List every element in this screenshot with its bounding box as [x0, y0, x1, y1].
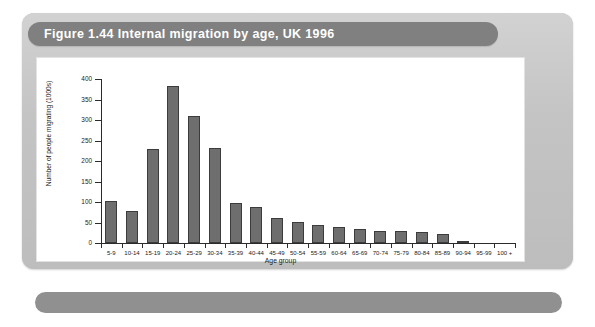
- bar: [395, 231, 407, 243]
- x-axis-tick-mark: [515, 243, 516, 248]
- x-axis-tick-label: 5-9: [101, 250, 122, 256]
- x-axis-tick-label: 65-69: [349, 250, 370, 256]
- chart-canvas: Number of people migrating (1000s) 05010…: [36, 57, 525, 262]
- x-axis-tick-mark: [453, 243, 454, 248]
- bar: [292, 222, 304, 243]
- bar: [333, 227, 345, 243]
- x-axis-tick-label: 15-19: [142, 250, 163, 256]
- x-axis-tick-mark: [142, 243, 143, 248]
- x-axis-tick-mark: [184, 243, 185, 248]
- y-axis-tick-label: 350: [81, 96, 92, 103]
- x-axis-tick-label: 100 +: [494, 250, 515, 256]
- figure-title-bar: Figure 1.44 Internal migration by age, U…: [28, 22, 498, 46]
- x-axis-tick-label: 55-59: [308, 250, 329, 256]
- y-axis-title: Number of people migrating (1000s): [45, 39, 52, 229]
- figure-title: Figure 1.44 Internal migration by age, U…: [28, 27, 335, 41]
- x-axis-tick-mark: [474, 243, 475, 248]
- x-axis-tick-label: 60-64: [329, 250, 350, 256]
- x-axis-tick-label: 30-34: [205, 250, 226, 256]
- x-axis-tick-label: 75-79: [391, 250, 412, 256]
- x-axis-tick-mark: [308, 243, 309, 248]
- bar: [126, 211, 138, 243]
- bar: [230, 203, 242, 243]
- x-axis-tick-mark: [267, 243, 268, 248]
- x-axis-tick-label: 85-89: [432, 250, 453, 256]
- bar: [188, 116, 200, 243]
- x-axis-tick-label: 20-24: [163, 250, 184, 256]
- x-axis-tick-label: 25-29: [184, 250, 205, 256]
- x-axis-tick-mark: [432, 243, 433, 248]
- bar: [437, 234, 449, 243]
- bar-series: [101, 79, 515, 243]
- bar: [271, 218, 283, 243]
- bar: [457, 241, 469, 243]
- bar: [312, 225, 324, 243]
- y-axis-tick-label: 200: [81, 157, 92, 164]
- x-axis-tick-mark: [122, 243, 123, 248]
- x-axis-tick-mark: [163, 243, 164, 248]
- x-axis-tick-label: 40-44: [246, 250, 267, 256]
- x-axis-tick-mark: [349, 243, 350, 248]
- bar: [374, 231, 386, 243]
- x-axis-tick-label: 70-74: [370, 250, 391, 256]
- x-axis-tick-mark: [225, 243, 226, 248]
- bar: [147, 149, 159, 243]
- x-axis-tick-mark: [391, 243, 392, 248]
- x-axis-tick-mark: [412, 243, 413, 248]
- x-axis-tick-label: 90-94: [453, 250, 474, 256]
- y-axis-tick-label: 400: [81, 75, 92, 82]
- y-axis-tick-label: 100: [81, 198, 92, 205]
- x-axis-tick-label: 95-99: [474, 250, 495, 256]
- y-axis-tick-label: 300: [81, 116, 92, 123]
- x-axis-tick-label: 10-14: [122, 250, 143, 256]
- x-axis-tick-label: 35-39: [225, 250, 246, 256]
- plot-area: Number of people migrating (1000s) 05010…: [37, 58, 524, 261]
- x-axis-tick-label: 45-49: [267, 250, 288, 256]
- y-axis-tick-label: 0: [88, 239, 92, 246]
- x-axis-tick-mark: [101, 243, 102, 248]
- figure-bottom-bar: [35, 292, 562, 313]
- x-axis-tick-mark: [205, 243, 206, 248]
- x-axis-tick-mark: [329, 243, 330, 248]
- x-axis-tick-mark: [494, 243, 495, 248]
- y-axis-tick-label: 250: [81, 137, 92, 144]
- bar: [250, 207, 262, 243]
- bar: [354, 229, 366, 243]
- bar: [167, 86, 179, 243]
- y-axis-tick-label: 50: [85, 219, 92, 226]
- x-axis-tick-mark: [287, 243, 288, 248]
- bar: [416, 232, 428, 243]
- bar: [105, 201, 117, 243]
- x-axis-title: Age group: [37, 257, 524, 264]
- x-axis-tick-label: 80-84: [412, 250, 433, 256]
- x-axis-tick-mark: [370, 243, 371, 248]
- x-axis-tick-label: 50-54: [287, 250, 308, 256]
- y-axis-tick-label: 150: [81, 178, 92, 185]
- bar: [209, 148, 221, 243]
- x-axis-tick-mark: [246, 243, 247, 248]
